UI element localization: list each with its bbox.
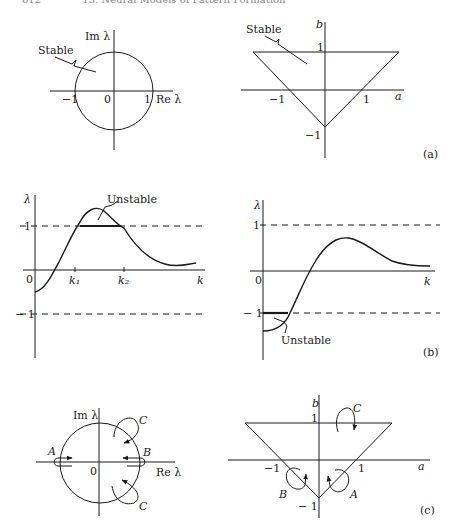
dispersion-curve [35,208,196,292]
path-a-label: A [47,445,56,458]
panel-b-right-plot [250,200,440,360]
path-c-lower-label: C [139,500,148,513]
panel-b-left-plot [20,195,205,358]
path-a-arrow [328,470,349,492]
panel-c-left-plot [36,408,175,516]
lambda-axis-label: λ [253,199,261,212]
tick-one: 1 [24,220,31,233]
tick-one: 1 [253,219,260,232]
panel-label-c: (c) [420,504,435,517]
path-b-label: B [278,488,287,501]
unstable-label: Unstable [107,193,157,206]
k-axis-label: k [197,274,204,287]
im-lambda-label: Im λ [85,30,110,43]
im-lambda-label: Im λ [73,409,98,422]
k-axis-label: k [424,275,431,288]
panel-label-b: (b) [423,346,439,359]
tick-zero: 0 [104,93,111,106]
path-b-arrow [286,468,306,489]
origin-label: 0 [26,273,33,286]
path-a-label: A [349,488,358,501]
panel-label-a: (a) [423,148,438,161]
stable-leader-line [55,57,96,72]
tick-minus-one: − 1 [15,308,35,321]
k2-label: k₂ [118,274,129,287]
a-tick-one: 1 [363,93,370,106]
stability-figure: Stable Im λ Re λ −1 0 1 Stable b a −1 1 … [0,0,456,532]
tick-one: 1 [144,93,151,106]
b-tick-one: 1 [311,412,318,425]
re-lambda-label: Re λ [156,93,181,106]
unit-circle [60,423,140,503]
tick-minus-one: − 1 [243,307,263,320]
stable-leader-line [265,36,307,64]
a-tick-minus-one: −1 [269,93,285,106]
b-tick-minus-one: − 1 [298,500,318,513]
a-axis-label: a [395,90,402,103]
stable-label: Stable [246,23,282,36]
b-axis-label: b [316,18,323,31]
a-tick-minus-one: −1 [264,462,280,475]
origin-label: 0 [255,274,262,287]
a-axis-label: a [418,460,425,473]
k1-label: k₁ [69,274,80,287]
path-c-label: C [353,402,362,415]
re-lambda-label: Re λ [156,466,181,479]
origin-label: 0 [90,465,97,478]
path-b-label: B [142,446,151,459]
b-axis-label: b [312,397,319,410]
dispersion-curve [263,238,430,331]
lambda-axis-label: λ [23,193,31,206]
path-c-arrow [336,408,354,432]
panel-c-right-plot [228,395,430,518]
unstable-label: Unstable [281,334,331,347]
stable-label: Stable [38,44,74,57]
tick-minus-one: −1 [62,93,78,106]
b-tick-one: 1 [317,41,324,54]
path-c-upper-label: C [139,414,148,427]
a-tick-one: 1 [358,462,365,475]
b-tick-minus-one: −1 [305,129,321,142]
path-c-upper-arrow [114,418,138,443]
